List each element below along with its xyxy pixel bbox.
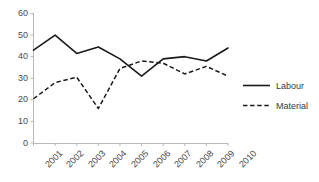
y-tick-label-50: 50: [10, 31, 28, 40]
y-tick-label-30: 30: [10, 74, 28, 83]
line-chart: 0102030405060 20012002200320042005200620…: [0, 0, 319, 182]
y-tick-label-40: 40: [10, 52, 28, 61]
y-tick-label-20: 20: [10, 95, 28, 104]
y-tick-label-60: 60: [10, 9, 28, 18]
y-tick-label-10: 10: [10, 117, 28, 126]
y-tick-label-0: 0: [10, 139, 28, 148]
legend-label-labour: Labour: [276, 82, 304, 91]
legend-label-material: Material: [276, 102, 308, 111]
series-line-labour: [34, 35, 229, 76]
